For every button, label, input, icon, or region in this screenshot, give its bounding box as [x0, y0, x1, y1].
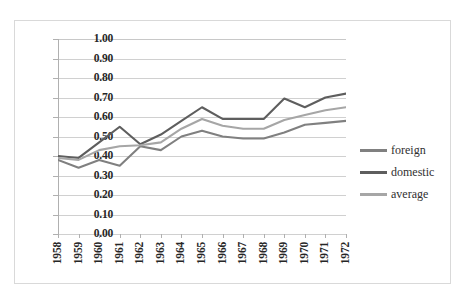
- chart-container: 1.000.900.800.700.600.500.400.300.200.10…: [14, 20, 451, 284]
- legend-item-foreign[interactable]: foreign: [360, 139, 448, 161]
- x-axis-tick-label: 1960: [93, 242, 105, 264]
- legend-item-domestic[interactable]: domestic: [360, 161, 448, 183]
- legend-item-label: foreign: [391, 144, 426, 156]
- legend-swatch-icon: [360, 193, 387, 196]
- x-axis-tick-label: 1961: [114, 242, 126, 264]
- x-axis-tick-label: 1971: [319, 242, 331, 264]
- legend-item-average[interactable]: average: [360, 183, 448, 205]
- x-axis-tick-label: 1967: [237, 242, 249, 264]
- series-lines-group: [58, 39, 346, 235]
- x-axis-tick-label: 1958: [52, 242, 64, 264]
- chart-legend: foreigndomesticaverage: [360, 139, 448, 205]
- x-axis-tick-label: 1968: [258, 242, 270, 264]
- x-axis-tick-label: 1970: [299, 242, 311, 264]
- x-axis-tick-label: 1959: [73, 242, 85, 264]
- x-axis-tick: [346, 234, 347, 238]
- x-axis-tick-label: 1963: [155, 242, 167, 264]
- series-line-foreign: [58, 121, 346, 168]
- x-axis-tick-label: 1972: [340, 242, 352, 264]
- legend-swatch-icon: [360, 149, 387, 152]
- series-line-average: [58, 107, 346, 160]
- x-axis-tick-label: 1969: [278, 242, 290, 264]
- legend-item-label: domestic: [391, 166, 434, 178]
- x-axis-tick-label: 1962: [134, 242, 146, 264]
- x-axis-tick-label: 1964: [175, 242, 187, 264]
- x-axis-tick-label: 1965: [196, 242, 208, 264]
- legend-swatch-icon: [360, 171, 387, 174]
- legend-item-label: average: [391, 188, 428, 200]
- x-axis-tick-label: 1966: [217, 242, 229, 264]
